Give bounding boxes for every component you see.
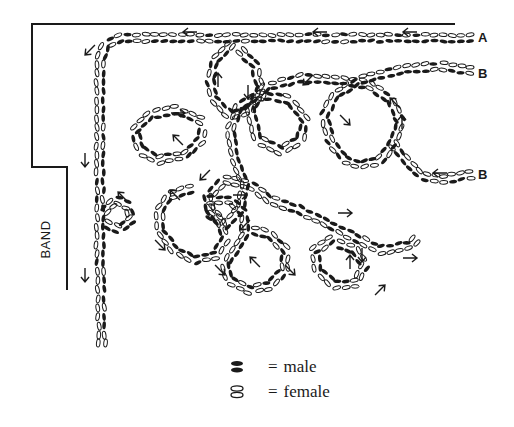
legend-equals: = [268,357,278,377]
legend-label-female: female [284,382,330,402]
label-b-upper: B [478,66,487,81]
direction-arrow-icon [372,282,388,298]
label-a: A [478,30,487,45]
legend-male: = male [226,357,317,377]
legend-female: = female [226,382,330,402]
direction-arrow-icon [170,132,186,148]
direction-arrow-icon [358,248,366,262]
direction-arrow-icon [338,209,352,217]
label-b-lower: B [478,167,487,182]
legend-label-male: male [284,357,317,377]
direction-arrow-icon [403,254,417,262]
legend-equals: = [268,382,278,402]
band-label: BAND [38,220,53,258]
direction-arrow-icon [247,254,263,270]
direction-arrow-icon [81,153,89,167]
dance-diagram: BAND A B B = male = female [0,0,514,427]
dancer-pairs [94,32,475,348]
direction-arrow-icon [197,167,213,183]
direction-arrow-icon [346,255,354,269]
direction-arrow-icon [81,268,89,282]
direction-arrow-icon [398,115,406,129]
female-icon [226,384,248,400]
direction-arrow-icon [337,112,353,128]
male-icon [226,359,248,375]
direction-arrow-icon [183,28,197,36]
